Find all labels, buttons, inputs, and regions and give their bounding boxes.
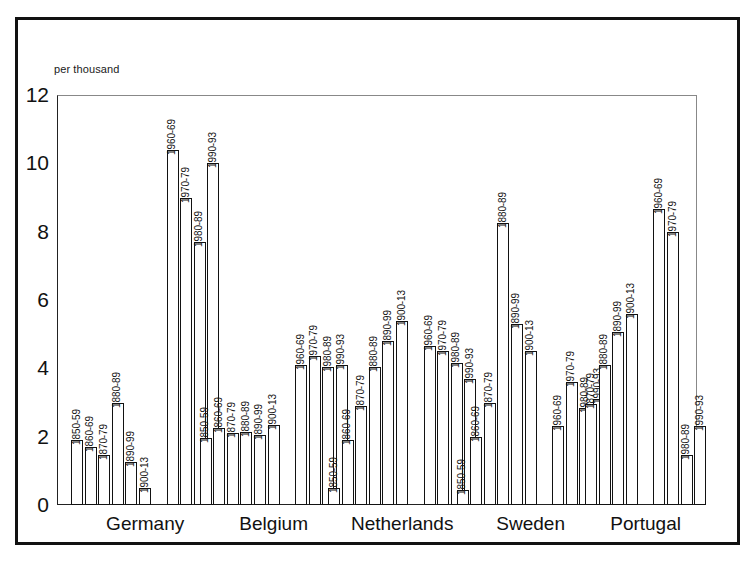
bar [424, 346, 436, 505]
bar [98, 455, 110, 505]
bar [167, 150, 179, 505]
bar-period-label: 1860-69 [342, 409, 352, 445]
bar [694, 426, 706, 505]
bar-period-label: 1960-69 [167, 119, 177, 155]
bar-period-label: 1890-99 [613, 301, 623, 337]
bar-period-label: 1970-79 [309, 325, 319, 361]
bar-period-label: 1870-79 [484, 372, 494, 408]
bar [71, 440, 83, 505]
bar-period-label: 1900-13 [268, 394, 278, 430]
bar-period-label: 1850-59 [457, 459, 467, 495]
bar [85, 447, 97, 505]
bar-period-label: 1890-99 [126, 431, 136, 467]
bar [254, 435, 266, 505]
bar-period-label: 1980-89 [194, 211, 204, 247]
bar [667, 232, 679, 505]
bar-period-label: 1860-69 [471, 406, 481, 442]
bar [626, 314, 638, 505]
bar-period-label: 1970-79 [181, 167, 191, 203]
bar [180, 198, 192, 506]
country-label: Portugal [556, 513, 736, 535]
bar-period-label: 1990-93 [465, 348, 475, 384]
bar-period-label: 1990-93 [336, 334, 346, 370]
bar-period-label: 1900-13 [525, 320, 535, 356]
bar-period-label: 1860-69 [85, 416, 95, 452]
bar [552, 426, 564, 505]
bar-period-label: 1850-59 [200, 407, 210, 443]
bar [599, 365, 611, 505]
bar-period-label: 1900-13 [140, 457, 150, 493]
bar [382, 341, 394, 505]
bar-period-label: 1870-79 [356, 375, 366, 411]
bar-period-label: 1850-59 [329, 457, 339, 493]
bar-period-label: 1870-79 [227, 402, 237, 438]
bar [470, 437, 482, 505]
bar [309, 356, 321, 505]
bar [227, 433, 239, 505]
bar-period-label: 1970-79 [438, 320, 448, 356]
bar [511, 324, 523, 505]
bar [355, 406, 367, 505]
bar [200, 438, 212, 505]
bar-period-label: 1900-13 [626, 283, 636, 319]
bar-period-label: 1890-99 [254, 404, 264, 440]
bar [213, 428, 225, 505]
bar [525, 351, 537, 505]
bar-period-label: 1970-79 [566, 351, 576, 387]
bar-period-label: 1900-13 [397, 290, 407, 326]
bar [268, 425, 280, 505]
bar-period-label: 1880-89 [112, 372, 122, 408]
bar [342, 440, 354, 505]
bar [484, 403, 496, 506]
bar-period-label: 1980-89 [323, 336, 333, 372]
bar-period-label: 1990-93 [208, 132, 218, 168]
bar [653, 209, 665, 505]
figure-root: per thousand 024681012 1850-591860-69187… [0, 0, 756, 577]
bar [369, 367, 381, 505]
bars-layer: 1850-591860-691870-791880-891890-991900-… [57, 95, 697, 505]
bar-period-label: 1870-79 [586, 373, 596, 409]
bar [295, 365, 307, 505]
bar-period-label: 1890-99 [383, 310, 393, 346]
bar-period-label: 1960-69 [424, 315, 434, 351]
bar-period-label: 1870-79 [99, 424, 109, 460]
bar [612, 332, 624, 505]
bar [497, 223, 509, 505]
bar [681, 455, 693, 505]
bar-period-label: 1980-89 [681, 424, 691, 460]
bar-period-label: 1850-59 [72, 409, 82, 445]
bar-period-label: 1880-89 [599, 334, 609, 370]
bar [396, 321, 408, 506]
bar-period-label: 1860-69 [214, 397, 224, 433]
bar [240, 432, 252, 505]
bar-period-label: 1880-89 [369, 336, 379, 372]
bar-period-label: 1990-93 [695, 395, 705, 431]
bar-period-label: 1880-89 [241, 401, 251, 437]
bar-period-label: 1960-69 [654, 178, 664, 214]
bar [566, 382, 578, 505]
bar-period-label: 1960-69 [553, 395, 563, 431]
bar-period-label: 1890-99 [511, 293, 521, 329]
bar-period-label: 1960-69 [296, 334, 306, 370]
bar-period-label: 1980-89 [451, 332, 461, 368]
bar [112, 403, 124, 506]
bar [585, 404, 597, 505]
bar [437, 351, 449, 505]
bar-period-label: 1880-89 [498, 192, 508, 228]
axis-unit-caption: per thousand [54, 63, 119, 75]
bar [125, 462, 137, 505]
bar-period-label: 1970-79 [668, 201, 678, 237]
